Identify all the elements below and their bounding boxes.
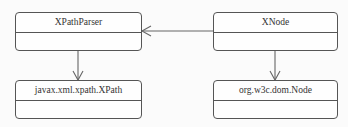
class-name: org.w3c.dom.Node [214,81,337,101]
class-attributes-compartment [214,101,337,119]
class-box-xnode[interactable]: XNode [213,12,338,51]
class-box-javax-xml-xpath-xpath[interactable]: javax.xml.xpath.XPath [15,80,142,119]
uml-diagram-canvas: XPathParser XNode javax.xml.xpath.XPath … [0,0,348,127]
class-box-xpathparser[interactable]: XPathParser [15,12,142,51]
class-name: XPathParser [16,13,141,33]
association-xpathparser-to-xpath [73,50,83,80]
class-attributes-compartment [16,33,141,51]
association-xnode-to-xpathparser [142,26,213,36]
class-box-org-w3c-dom-node[interactable]: org.w3c.dom.Node [213,80,338,119]
class-attributes-compartment [214,33,337,51]
class-attributes-compartment [16,101,141,119]
class-name: javax.xml.xpath.XPath [16,81,141,101]
class-name: XNode [214,13,337,33]
association-xnode-to-domnode [270,50,280,80]
